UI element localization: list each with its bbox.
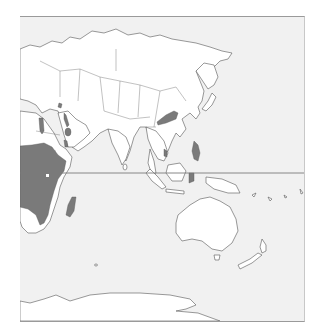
- pacific-islands: [252, 189, 303, 201]
- range-philippines: [192, 141, 200, 161]
- range-arabia-interior: [65, 128, 71, 136]
- antarctica: [20, 293, 220, 321]
- range-sulawesi: [189, 173, 194, 183]
- borneo: [166, 163, 186, 181]
- new-zealand-south: [238, 253, 262, 269]
- new-guinea: [206, 177, 240, 193]
- map-frame: [20, 16, 305, 322]
- japan: [202, 93, 216, 111]
- lake-victoria: [46, 174, 49, 177]
- java: [166, 189, 184, 194]
- tasmania: [214, 255, 220, 260]
- new-zealand-north: [260, 239, 266, 253]
- sri-lanka: [123, 164, 127, 170]
- island-small: [95, 264, 98, 266]
- range-madagascar: [66, 197, 76, 217]
- australia: [176, 197, 238, 251]
- world-map: [20, 17, 304, 321]
